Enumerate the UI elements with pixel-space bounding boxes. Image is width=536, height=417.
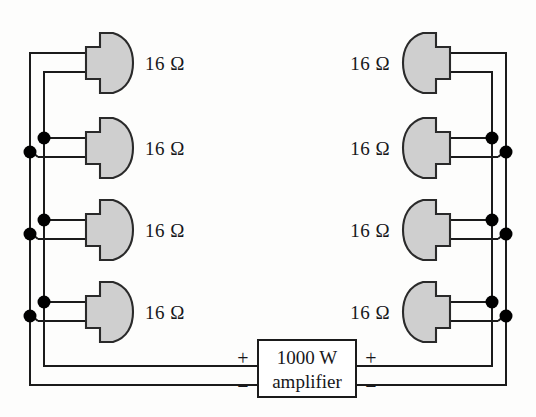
amplifier-right-minus-sign: −: [365, 375, 376, 397]
right-speaker-3-symbol[interactable]: [403, 200, 450, 260]
left-speaker-4-symbol[interactable]: [86, 282, 133, 342]
left-junction-dot-inner-3: [38, 296, 51, 309]
amplifier-left-plus-sign: +: [237, 347, 248, 369]
left-speaker-1-symbol[interactable]: [86, 33, 133, 93]
left-speaker-1-label: 16 Ω: [145, 53, 185, 74]
left-impedance-labels: 16 Ω 16 Ω 16 Ω 16 Ω: [145, 53, 185, 323]
left-junction-dot-outer-2: [24, 228, 37, 241]
right-junction-dot-inner-1: [486, 132, 499, 145]
amplifier-power-label: 1000 W: [277, 347, 337, 368]
right-junction-dot-outer-2: [500, 228, 513, 241]
right-junction-dot-inner-2: [486, 214, 499, 227]
right-speaker-2-label: 16 Ω: [350, 138, 390, 159]
left-speaker-2-label: 16 Ω: [145, 138, 185, 159]
left-speaker-column: [86, 33, 133, 342]
right-impedance-labels: 16 Ω 16 Ω 16 Ω 16 Ω: [350, 53, 390, 323]
left-speaker-2-symbol[interactable]: [86, 118, 133, 178]
amplifier-name-label: amplifier: [272, 371, 342, 392]
right-speaker-1-symbol[interactable]: [403, 33, 450, 93]
right-speaker-4-symbol[interactable]: [403, 282, 450, 342]
right-speaker-1-label: 16 Ω: [350, 53, 390, 74]
right-speaker-3-label: 16 Ω: [350, 220, 390, 241]
left-junction-dot-outer-1: [24, 146, 37, 159]
right-speaker-4-label: 16 Ω: [350, 302, 390, 323]
right-speaker-column: [403, 33, 450, 342]
left-speaker-3-label: 16 Ω: [145, 220, 185, 241]
right-junction-dot-inner-3: [486, 296, 499, 309]
amplifier-block[interactable]: 1000 W amplifier: [258, 340, 356, 397]
left-junction-dot-outer-3: [24, 310, 37, 323]
right-speaker-2-symbol[interactable]: [403, 118, 450, 178]
left-speaker-3-symbol[interactable]: [86, 200, 133, 260]
circuit-schematic-canvas: 1000 W amplifier + − + − 16 Ω 16 Ω 16 Ω …: [0, 0, 536, 417]
amplifier-right-plus-sign: +: [365, 347, 376, 369]
amplifier-left-minus-sign: −: [237, 375, 248, 397]
left-speaker-4-label: 16 Ω: [145, 302, 185, 323]
left-junction-dot-inner-2: [38, 214, 51, 227]
left-junction-dot-inner-1: [38, 132, 51, 145]
right-junction-dot-outer-3: [500, 310, 513, 323]
circuit-diagram-figure: 1000 W amplifier + − + − 16 Ω 16 Ω 16 Ω …: [0, 0, 536, 417]
right-junction-dot-outer-1: [500, 146, 513, 159]
